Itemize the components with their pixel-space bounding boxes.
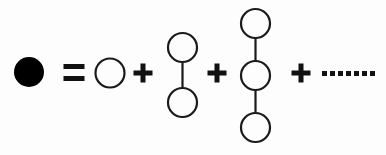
plus-sign-2 [208,64,227,83]
open-circle-node [241,61,270,90]
ellipsis-dots [322,71,375,76]
term-monomer [96,59,125,88]
ellipsis-dot [346,71,351,76]
figure-canvas [0,0,386,155]
ellipsis-dot [330,71,335,76]
plus-bar-vertical [215,64,220,83]
open-circle-node [96,59,125,88]
term-trimer [241,9,270,142]
ellipsis-dot [362,71,367,76]
equals-sign [64,64,85,81]
ellipsis-dot [370,71,375,76]
term-dimer [168,33,197,117]
filled-circle-glyph [14,57,44,87]
ellipsis-dot [322,71,327,76]
open-circle-node [168,88,197,117]
plus-sign-3 [292,64,311,83]
ellipsis-dot [354,71,359,76]
plus-bar-vertical [141,64,146,83]
open-circle-node [241,9,270,38]
plus-bar-vertical [299,64,304,83]
ellipsis-dot [338,71,343,76]
open-circle-node [241,113,270,142]
equation-diagram [0,0,386,155]
open-circle-node [168,33,197,62]
plus-sign-1 [134,64,153,83]
